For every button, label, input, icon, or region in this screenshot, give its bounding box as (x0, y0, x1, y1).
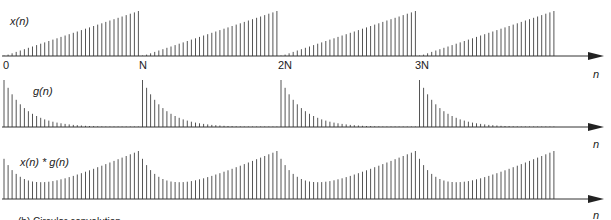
axis-n-label: n (593, 138, 599, 150)
tick-0: 0 (3, 59, 9, 71)
axis-n-label: n (593, 209, 599, 220)
axis-n-label: n (593, 68, 599, 80)
figure-caption: (b) Circular convolution (18, 216, 121, 220)
x-stems (4, 11, 554, 56)
g-label: g(n) (33, 85, 53, 97)
tick-2N: 2N (278, 59, 292, 71)
xg-stems (4, 151, 554, 199)
xg-label: x(n) * g(n) (19, 156, 69, 168)
g-stems (4, 80, 554, 127)
g-axis (2, 123, 604, 131)
arrow-icon (588, 195, 604, 203)
tick-3N: 3N (415, 59, 429, 71)
arrow-icon (588, 123, 604, 131)
x-label: x(n) (9, 15, 29, 27)
arrow-icon (588, 52, 604, 60)
circular-convolution-figure: x(n) g(n) x(n) * g(n) 0 N 2N 3N n n n (b… (0, 0, 611, 220)
tick-N: N (139, 59, 147, 71)
